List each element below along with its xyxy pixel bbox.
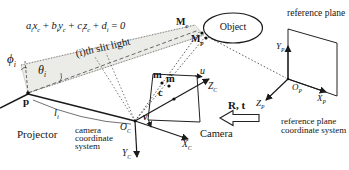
theta-angle-label: θi xyxy=(38,64,46,76)
xc-axis-label: XC xyxy=(182,140,192,150)
xp-axis-label: XP xyxy=(317,94,326,103)
yp-axis-label: YP xyxy=(276,42,284,51)
yc-axis-label: YC xyxy=(122,149,131,159)
v-axis-label: v xyxy=(143,112,147,122)
image-point-m-tilde-label: m̃ xyxy=(166,74,175,85)
baseline-leader-curve xyxy=(33,100,131,124)
figure-canvas: aixc + biyc + cizc + di = 0 (i)th slit l… xyxy=(0,0,349,170)
zp-axis-label: ZP xyxy=(256,99,264,108)
point-mp-label: Mp xyxy=(191,34,204,44)
camera-ray-to-slit-1 xyxy=(95,57,135,121)
object-label: Object xyxy=(212,22,254,32)
op-origin-dot xyxy=(287,78,290,81)
point-mc-label: Mc xyxy=(176,17,188,27)
camera-origin-dot xyxy=(134,120,137,123)
point-mp-dot xyxy=(204,36,207,39)
zc-axis-label: ZC xyxy=(208,82,217,92)
image-point-m-tilde-dot xyxy=(167,84,170,87)
projector-point-label: p xyxy=(23,96,29,107)
camera-label: Camera xyxy=(200,129,233,140)
baseline-length-label: li xyxy=(54,108,59,119)
reference-plane-label: reference plane xyxy=(287,9,345,19)
rt-block-arrow xyxy=(220,111,259,126)
yc-axis xyxy=(135,121,137,157)
u-axis-arrow xyxy=(195,76,202,77)
principal-point-dot xyxy=(172,97,175,100)
zp-axis xyxy=(266,79,288,100)
camera-origin-label: OC xyxy=(120,123,131,133)
reference-cs-caption: reference plane coordinate system xyxy=(281,117,347,134)
projector-label: Projector xyxy=(17,129,57,140)
principal-point-label: c xyxy=(158,88,163,99)
slit-plane-equation: aixc + biyc + cizc + di = 0 xyxy=(26,21,125,32)
u-axis-label: u xyxy=(200,66,205,76)
phi-angle-label: ϕi xyxy=(7,52,16,65)
image-point-m-label: m xyxy=(153,70,162,81)
op-origin-label: OP xyxy=(292,83,302,92)
rt-transform-label: R, t xyxy=(228,100,245,111)
object-to-op-dotted-ray xyxy=(208,37,286,78)
xc-axis xyxy=(135,121,188,139)
image-point-m-dot xyxy=(160,81,163,84)
